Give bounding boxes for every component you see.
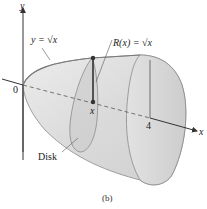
x4-label: 4	[146, 121, 151, 131]
x-axis-label: x	[199, 127, 203, 137]
radius-label: R(x) = √x	[113, 38, 152, 48]
figure-caption: (b)	[102, 194, 113, 203]
diagram-canvas	[0, 0, 207, 209]
curve-label-leader	[42, 48, 50, 60]
disk-label: Disk	[38, 152, 57, 162]
radius-top-point	[91, 56, 95, 60]
x-point-label: x	[90, 106, 94, 116]
x-point	[91, 100, 95, 104]
origin-label: 0	[13, 85, 18, 95]
curve-label: y = √x	[31, 35, 57, 45]
solid-of-revolution-figure: y y = √x R(x) = √x 0 x 4 x Disk (b)	[0, 0, 207, 209]
y-axis-label: y	[20, 1, 24, 11]
